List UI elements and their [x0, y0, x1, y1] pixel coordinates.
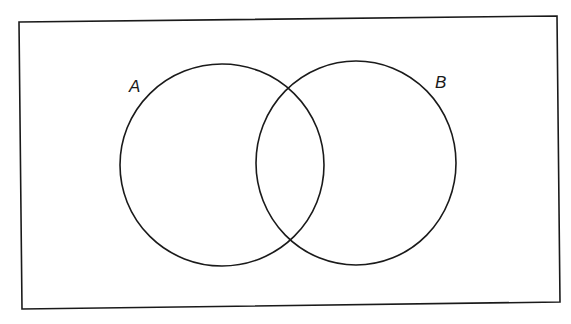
set-a-circle [120, 64, 324, 266]
universe-rectangle [19, 16, 560, 309]
set-b-label: B [435, 73, 446, 92]
set-a-label: A [128, 77, 140, 96]
set-b-circle [256, 61, 456, 265]
venn-diagram: A B [0, 0, 571, 324]
